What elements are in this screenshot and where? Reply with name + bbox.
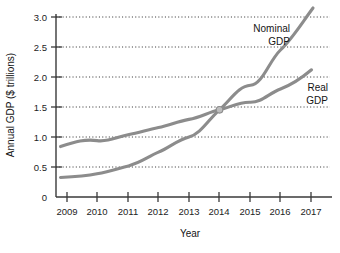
x-tick-label-2016: 2016	[269, 206, 290, 217]
x-tick-label-2017: 2017	[300, 206, 321, 217]
x-tick-label-2010: 2010	[86, 206, 107, 217]
x-axis-title: Year	[180, 228, 201, 239]
x-tick-label-2015: 2015	[239, 206, 260, 217]
intersection-marker	[216, 107, 223, 114]
gdp-line-chart: 3.0 2.5 2.0 1.5 1.0 0.5 0 2009 2010 2011…	[0, 0, 340, 253]
y-axis-title: Annual GDP ($ trillions)	[5, 53, 16, 157]
x-tick-label-2013: 2013	[178, 206, 199, 217]
y-tick-label-3-0: 3.0	[34, 12, 47, 23]
y-tick-label-1-5: 1.5	[34, 102, 47, 113]
series-annotation-nominal-gdp-line2: GDP	[268, 36, 290, 47]
x-tick-label-2011: 2011	[118, 206, 138, 217]
y-tick-label-0-5: 0.5	[34, 162, 47, 173]
y-tick-label-2-0: 2.0	[34, 72, 47, 83]
series-annotation-nominal-gdp-line1: Nominal	[253, 23, 290, 34]
y-tick-label-1-0: 1.0	[34, 132, 47, 143]
series-annotation-real-gdp-line2: GDP	[306, 95, 328, 106]
chart-canvas: 3.0 2.5 2.0 1.5 1.0 0.5 0 2009 2010 2011…	[0, 0, 340, 253]
x-tick-label-2014: 2014	[208, 206, 229, 217]
x-tick-label-2009: 2009	[56, 206, 77, 217]
x-tick-label-2012: 2012	[147, 206, 168, 217]
series-annotation-real-gdp-line1: Real	[307, 82, 328, 93]
y-tick-label-2-5: 2.5	[34, 42, 47, 53]
y-tick-label-0: 0	[42, 192, 47, 203]
